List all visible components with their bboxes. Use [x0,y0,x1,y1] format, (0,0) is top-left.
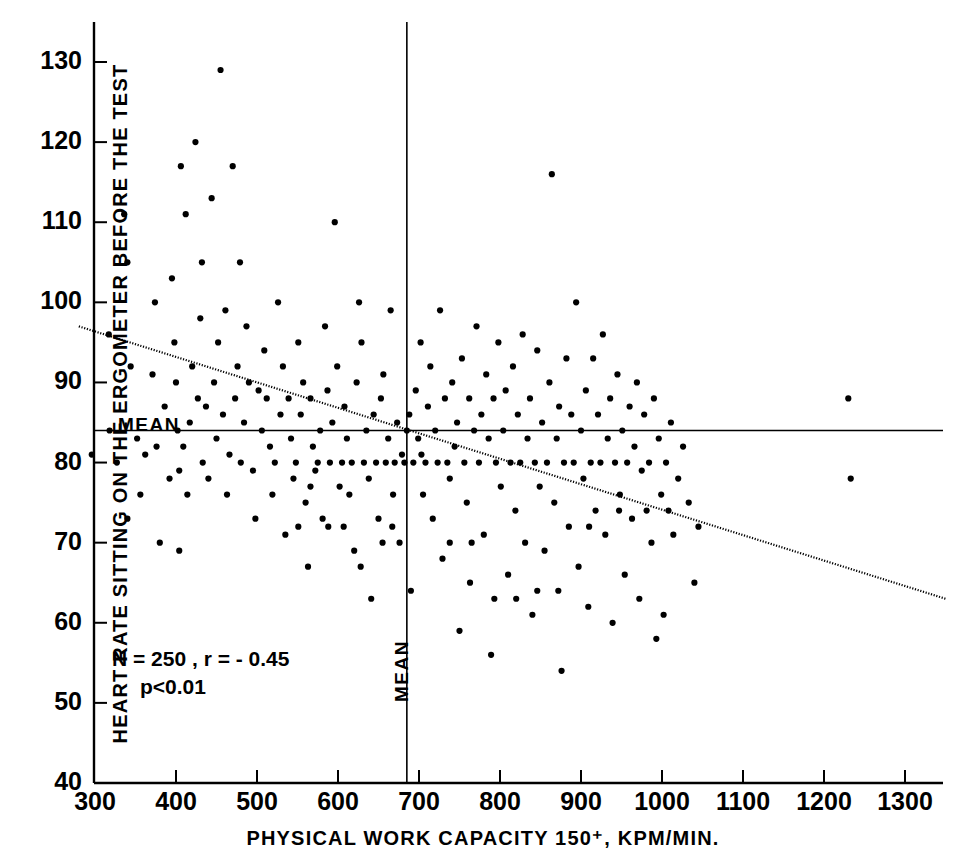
scatter-plot-figure: HEART RATE SITTING ON THE ERGOMETER BEFO… [0,0,966,868]
y-tick-label: 100 [12,286,82,315]
y-tick-label: 120 [12,126,82,155]
statistics-line-p: p<0.01 [112,673,289,701]
y-tick-label: 50 [12,687,82,716]
scatter-points-group [89,67,854,674]
x-tick-label: 1300 [855,787,955,816]
y-tick-label: 90 [12,366,82,395]
y-tick-label: 70 [12,527,82,556]
statistics-line-n-r: N = 250 , r = - 0.45 [112,645,289,673]
y-tick-label: 110 [12,206,82,235]
mean-label-vertical: MEAN [391,621,413,721]
statistics-annotation: N = 250 , r = - 0.45 p<0.01 [112,645,289,702]
y-tick-label: 60 [12,607,82,636]
y-tick-label: 80 [12,447,82,476]
y-tick-label: 130 [12,46,82,75]
x-axis-title: PHYSICAL WORK CAPACITY 150⁺, KPM/MIN. [0,826,966,850]
y-tick-label: 40 [12,767,82,796]
mean-label-horizontal: MEAN [118,414,180,436]
